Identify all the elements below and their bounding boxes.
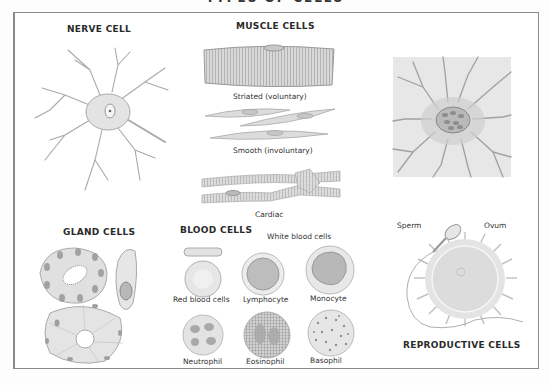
smooth-label: Smooth (involuntary) xyxy=(233,146,313,155)
nerve-cell-heading: NERVE CELL xyxy=(67,24,131,34)
striated-muscle-illustration xyxy=(202,45,337,90)
basophil-label: Basophil xyxy=(310,356,342,365)
basophil-illustration xyxy=(306,308,356,358)
eosinophil-illustration xyxy=(242,310,292,360)
red-blood-cell-illustration xyxy=(183,259,223,299)
nerve-cell-illustration xyxy=(30,40,190,200)
white-blood-cells-label: White blood cells xyxy=(267,232,331,241)
reproductive-cells-illustration xyxy=(385,222,525,342)
muscle-cells-heading: MUSCLE CELLS xyxy=(236,21,315,31)
reproductive-cells-heading: REPRODUCTIVE CELLS xyxy=(403,340,520,350)
striated-label: Striated (voluntary) xyxy=(233,92,307,101)
monocyte-illustration xyxy=(304,244,356,296)
gland-cells-heading: GLAND CELLS xyxy=(63,227,135,237)
lymphocyte-illustration xyxy=(240,251,286,297)
page-title: TYPES OF CELLS xyxy=(0,0,550,5)
bone-cell-illustration xyxy=(393,57,511,177)
neutrophil-illustration xyxy=(181,313,225,357)
lymphocyte-label: Lymphocyte xyxy=(243,295,288,304)
eosinophil-label: Eosinophil xyxy=(246,357,284,366)
red-blood-cells-label: Red blood cells xyxy=(173,295,230,304)
cardiac-muscle-illustration xyxy=(200,167,340,209)
gland-cells-illustration xyxy=(35,243,155,368)
red-blood-cell-side-illustration xyxy=(183,247,223,257)
blood-cells-heading: BLOOD CELLS xyxy=(180,225,252,235)
cardiac-label: Cardiac xyxy=(255,210,283,219)
neutrophil-label: Neutrophil xyxy=(183,357,222,366)
smooth-muscle-illustration xyxy=(200,104,340,144)
monocyte-label: Monocyte xyxy=(310,294,347,303)
